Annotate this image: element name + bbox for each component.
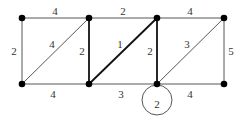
edge-weight-label: 1 bbox=[117, 38, 123, 50]
edge-weight-label: 4 bbox=[49, 38, 55, 50]
loop-weight-label: 2 bbox=[154, 98, 160, 110]
edge-weight-label: 2 bbox=[120, 5, 126, 17]
graph-node-H bbox=[221, 81, 228, 88]
edge-weight-label: 4 bbox=[187, 88, 193, 100]
edge-G-D bbox=[157, 18, 224, 84]
graph-node-D bbox=[221, 15, 228, 22]
graph-node-B bbox=[86, 15, 93, 22]
edge-weight-label: 3 bbox=[118, 88, 124, 100]
weighted-graph-diagram: 2 4242421235434 bbox=[0, 0, 244, 117]
graph-node-F bbox=[86, 81, 93, 88]
edge-weight-label: 2 bbox=[11, 45, 17, 57]
edge-weight-label: 4 bbox=[187, 5, 193, 17]
edge-weight-label: 5 bbox=[228, 45, 234, 57]
edge-weight-label: 2 bbox=[147, 45, 153, 57]
edge-weight-label: 2 bbox=[79, 45, 85, 57]
graph-node-A bbox=[19, 15, 26, 22]
graph-node-G bbox=[154, 81, 161, 88]
graph-node-E bbox=[19, 81, 26, 88]
graph-node-C bbox=[154, 15, 161, 22]
edge-weight-label: 4 bbox=[50, 88, 56, 100]
edge-weight-label: 4 bbox=[52, 5, 58, 17]
edge-weight-label: 3 bbox=[184, 38, 190, 50]
